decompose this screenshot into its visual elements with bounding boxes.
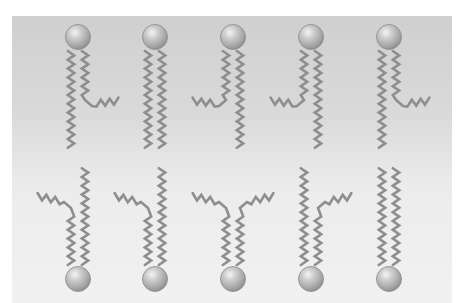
fatty-acid-tail-kinked bbox=[193, 51, 230, 107]
fatty-acid-tail-straight bbox=[379, 168, 385, 265]
fatty-acid-tail-straight bbox=[379, 51, 385, 148]
fatty-acid-tail-straight bbox=[159, 168, 165, 265]
fatty-acid-tail-straight bbox=[159, 51, 165, 148]
polar-head-icon bbox=[66, 25, 91, 50]
fatty-acid-tail-straight bbox=[301, 168, 307, 265]
polar-head-icon bbox=[66, 267, 91, 292]
bottom-leaflet bbox=[38, 168, 402, 291]
fatty-acid-tail-straight bbox=[145, 51, 151, 148]
polar-head-icon bbox=[377, 267, 402, 292]
top-leaflet bbox=[66, 25, 430, 148]
phospholipid-bilayer-diagram bbox=[0, 0, 462, 303]
polar-head-icon bbox=[143, 25, 168, 50]
fatty-acid-tail-kinked bbox=[82, 51, 119, 107]
polar-head-icon bbox=[377, 25, 402, 50]
fatty-acid-tail-straight bbox=[82, 168, 88, 265]
polar-head-icon bbox=[221, 267, 246, 292]
polar-head-icon bbox=[299, 25, 324, 50]
fatty-acid-tail-straight bbox=[68, 51, 74, 148]
polar-head-icon bbox=[221, 25, 246, 50]
fatty-acid-tail-kinked bbox=[115, 193, 152, 265]
polar-head-icon bbox=[143, 267, 168, 292]
fatty-acid-tail-straight bbox=[315, 51, 321, 148]
polar-head-icon bbox=[299, 267, 324, 292]
fatty-acid-tail-straight bbox=[393, 168, 399, 265]
fatty-acid-tail-straight bbox=[237, 51, 243, 148]
fatty-acid-tail-kinked bbox=[193, 193, 230, 265]
fatty-acid-tail-kinked bbox=[315, 193, 352, 265]
fatty-acid-tail-kinked bbox=[237, 193, 274, 265]
fatty-acid-tail-kinked bbox=[38, 193, 75, 265]
fatty-acid-tail-kinked bbox=[271, 51, 308, 107]
fatty-acid-tail-kinked bbox=[393, 51, 430, 107]
